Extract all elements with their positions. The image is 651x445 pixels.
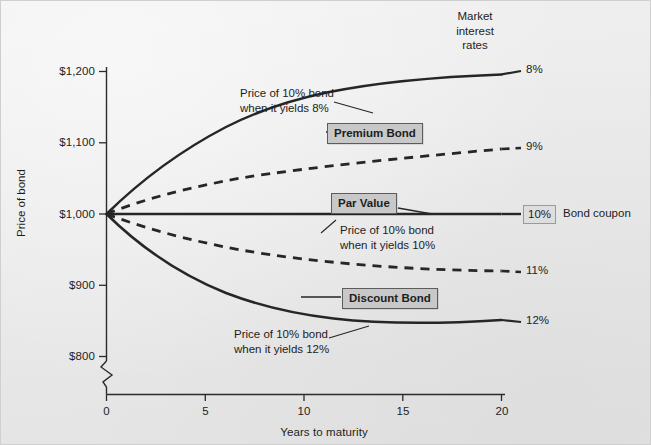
- y-axis-title: Price of bond: [15, 158, 27, 248]
- rate-label-10-coupon-box: 10%: [523, 205, 556, 224]
- x-tick-label-20: 20: [489, 404, 515, 418]
- leader-yield10-note: [321, 220, 336, 233]
- note-yield-12: Price of 10% bond when it yields 12%: [234, 327, 329, 357]
- stub-rate-12: [502, 320, 522, 322]
- legend-header: Market interest rates: [430, 9, 520, 53]
- legend-header-line1: Market: [430, 9, 520, 24]
- note-yield-10-line1: Price of 10% bond: [340, 223, 435, 238]
- bond-coupon-note: Bond coupon: [563, 207, 631, 219]
- stub-rate-8: [502, 71, 522, 74]
- x-tick-label-15: 15: [390, 404, 416, 418]
- y-axis-break-icon: [101, 361, 112, 387]
- y-tick-label-900: $900: [43, 278, 95, 292]
- callout-discount-bond: Discount Bond: [342, 288, 438, 309]
- curve-yield-9: [107, 149, 502, 214]
- callout-premium-bond: Premium Bond: [327, 123, 423, 144]
- note-yield-10-line2: when it yields 10%: [340, 238, 435, 253]
- rate-label-11: 11%: [526, 264, 548, 276]
- leader-yield8-note: [334, 102, 373, 113]
- legend-header-line2: interest: [430, 24, 520, 39]
- y-tick-label-1000: $1,000: [43, 207, 95, 221]
- y-tick-label-1100: $1,100: [43, 135, 95, 149]
- note-yield-10: Price of 10% bond when it yields 10%: [340, 223, 435, 253]
- note-yield-8: Price of 10% bond when it yields 8%: [240, 86, 334, 116]
- stub-rate-9: [502, 148, 522, 149]
- bond-price-figure: Price of bond $1,200 $1,100 $1,000 $900 …: [0, 0, 651, 445]
- note-yield-12-line2: when it yields 12%: [234, 342, 329, 357]
- y-tick-label-800: $800: [43, 349, 95, 363]
- rate-label-9: 9%: [526, 140, 543, 152]
- callout-par-value: Par Value: [331, 193, 397, 214]
- leader-yield12-note: [329, 326, 369, 338]
- rate-label-12: 12%: [526, 314, 549, 326]
- x-tick-label-0: 0: [94, 404, 119, 418]
- rate-label-8: 8%: [526, 63, 543, 75]
- stub-rate-11: [502, 271, 522, 272]
- note-yield-8-line2: when it yields 8%: [240, 101, 334, 116]
- y-tick-label-1200: $1,200: [43, 64, 95, 78]
- note-yield-12-line1: Price of 10% bond: [234, 327, 329, 342]
- note-yield-8-line1: Price of 10% bond: [240, 86, 334, 101]
- x-axis-title: Years to maturity: [259, 425, 389, 439]
- x-tick-label-10: 10: [291, 404, 317, 418]
- legend-header-line3: rates: [430, 38, 520, 53]
- x-tick-label-5: 5: [193, 404, 218, 418]
